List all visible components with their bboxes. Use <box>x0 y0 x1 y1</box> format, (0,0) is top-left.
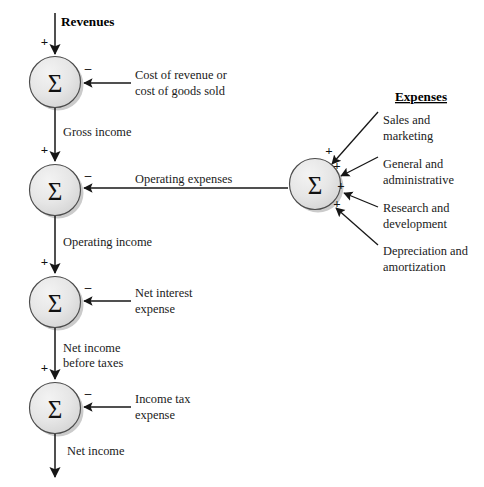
operating-income-label: Operating income <box>63 235 153 249</box>
sigma-icon: Σ <box>48 290 63 317</box>
general-and-administrative-group: + General and administrative <box>333 157 454 187</box>
general-and-administrative-label-line1: General and <box>383 157 444 171</box>
operating-expenses-minus-sign: – <box>84 167 92 182</box>
income-statement-diagram: + Revenues Σ – Cost of revenue or cost o… <box>0 0 484 487</box>
income-tax-expense-label-line2: expense <box>135 408 175 422</box>
depreciation-and-amortization-label-line2: amortization <box>383 260 446 274</box>
cost-of-revenue-group: – Cost of revenue or cost of goods sold <box>84 60 228 98</box>
expenses-heading: Expenses <box>395 89 447 104</box>
depreciation-and-amortization-plus-sign: + <box>333 196 340 211</box>
revenues-inflow-group: + Revenues <box>41 13 115 54</box>
net-interest-expense-group: – Net interest expense <box>84 279 193 316</box>
depreciation-and-amortization-arrow <box>336 208 378 245</box>
net-income-before-taxes-label-line2: before taxes <box>63 356 123 370</box>
revenues-label: Revenues <box>61 14 114 29</box>
net-income-plus-sign: + <box>41 360 48 375</box>
operating-income-plus-sign: + <box>41 142 48 157</box>
net-income-before-taxes-label-line1: Net income <box>63 341 121 355</box>
sales-and-marketing-label-line1: Sales and <box>383 113 431 127</box>
cost-of-revenue-minus-sign: – <box>84 60 92 75</box>
general-and-administrative-plus-sign: + <box>333 158 340 173</box>
gross-income-label: Gross income <box>63 125 132 139</box>
diagram-canvas: + Revenues Σ – Cost of revenue or cost o… <box>0 0 484 487</box>
net-income-label: Net income <box>67 444 125 458</box>
revenues-plus-sign: + <box>41 34 48 49</box>
research-and-development-plus-sign: + <box>337 178 344 193</box>
gross-income-connector-group: + Gross income <box>41 108 132 161</box>
net-interest-expense-label-line1: Net interest <box>135 286 193 300</box>
sales-and-marketing-arrow <box>332 112 378 164</box>
net-income-outflow-group: Net income <box>55 434 125 477</box>
pretax-income-node[interactable]: Σ <box>30 277 84 331</box>
sigma-icon: Σ <box>48 178 63 205</box>
general-and-administrative-label-line2: administrative <box>383 173 454 187</box>
gross-income-node[interactable]: Σ <box>30 57 84 111</box>
income-tax-expense-minus-sign: – <box>84 385 92 400</box>
sales-and-marketing-label-line2: marketing <box>383 129 433 143</box>
research-and-development-label-line1: Research and <box>383 201 450 215</box>
income-tax-expense-group: – Income tax expense <box>84 385 191 422</box>
net-income-node[interactable]: Σ <box>30 383 84 437</box>
sigma-icon: Σ <box>48 70 63 97</box>
net-interest-expense-minus-sign: – <box>84 279 92 294</box>
operating-expenses-group: – Operating expenses <box>84 167 288 188</box>
research-and-development-label-line2: development <box>383 217 448 231</box>
pretax-income-plus-sign: + <box>41 254 48 269</box>
pretax-income-connector-group: + Net income before taxes <box>41 328 124 379</box>
operating-income-node[interactable]: Σ <box>30 165 84 219</box>
sales-and-marketing-plus-sign: + <box>325 143 332 158</box>
general-and-administrative-arrow <box>341 157 378 176</box>
research-and-development-arrow <box>344 193 378 207</box>
operating-expenses-label: Operating expenses <box>135 172 233 186</box>
income-tax-expense-label-line1: Income tax <box>135 392 191 406</box>
cost-of-revenue-label-line2: cost of goods sold <box>135 84 226 98</box>
cost-of-revenue-label-line1: Cost of revenue or <box>135 68 228 82</box>
depreciation-and-amortization-label-line1: Depreciation and <box>383 244 469 258</box>
net-interest-expense-label-line2: expense <box>135 302 175 316</box>
sigma-icon: Σ <box>308 172 323 199</box>
sigma-icon: Σ <box>48 396 63 423</box>
operating-income-connector-group: + Operating income <box>41 216 153 273</box>
